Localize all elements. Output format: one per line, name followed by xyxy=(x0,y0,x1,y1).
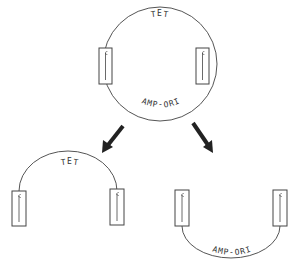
tet-label: TET xyxy=(60,157,79,167)
right-insertion-box xyxy=(196,48,209,84)
intact-plasmid: TET AMP-ORI xyxy=(99,7,217,121)
tet-label: TET xyxy=(150,9,169,19)
plasmid-diagram: TET AMP-ORI TET xyxy=(0,0,295,264)
tet-fragment: TET xyxy=(12,151,124,226)
arrow-shaft xyxy=(108,126,123,145)
right-insertion-box xyxy=(110,189,124,225)
right-insertion-box xyxy=(273,190,287,226)
left-insertion-box xyxy=(99,48,112,84)
left-split-arrow xyxy=(102,126,123,153)
arrow-shaft xyxy=(193,123,208,145)
right-split-arrow xyxy=(193,123,213,153)
left-insertion-box xyxy=(12,191,26,226)
amp-ori-label: AMP-ORI xyxy=(140,96,181,109)
amp-ori-fragment: AMP-ORI xyxy=(175,190,287,258)
amp-ori-label: AMP-ORI xyxy=(211,245,252,257)
left-insertion-box xyxy=(175,190,189,226)
